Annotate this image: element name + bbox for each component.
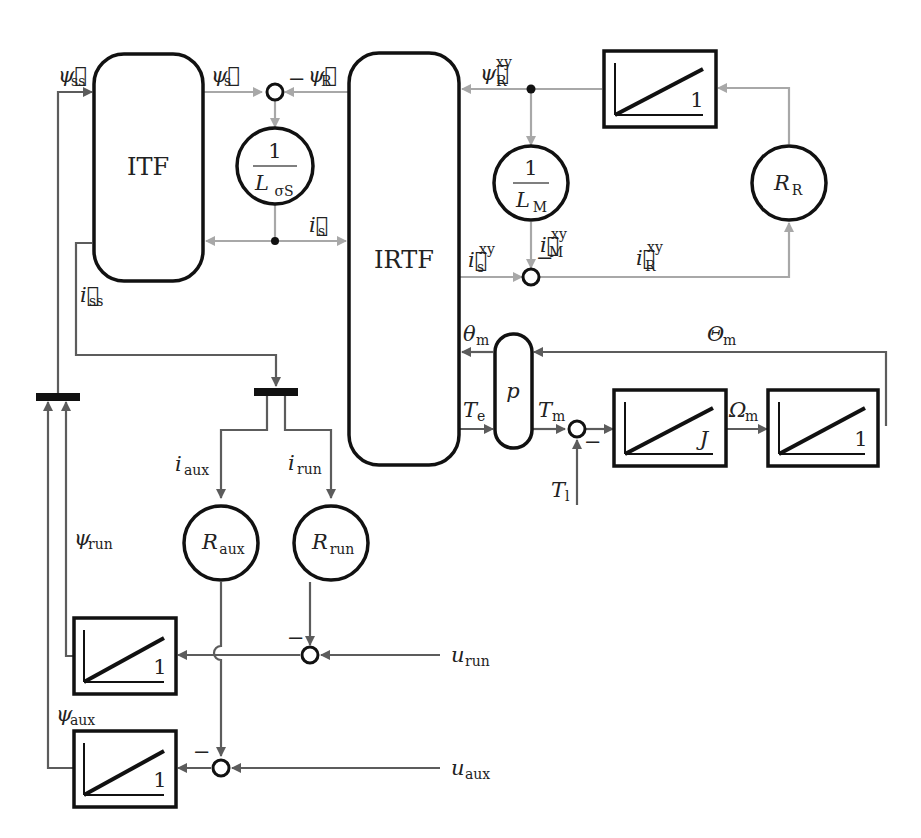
label-psi-aux: ψ aux: [56, 702, 95, 728]
integrator-aux-winding[interactable]: 1: [74, 731, 176, 807]
svg-text:s: s: [318, 223, 325, 239]
svg-text:u: u: [451, 643, 465, 667]
label-t-m: T m: [538, 398, 565, 424]
rotor-resistance-block[interactable]: R R: [752, 146, 826, 220]
label-i-ss: i⃗ ss: [80, 283, 103, 309]
label-psi-r-xy: ψ⃗ R xy: [480, 54, 512, 89]
svg-text:Θ: Θ: [707, 322, 724, 346]
svg-text:run: run: [465, 653, 490, 669]
label-psi-ss: ψ⃗ ss: [58, 63, 87, 89]
integrator-rotor-gain: 1: [690, 88, 703, 112]
svg-text:R: R: [496, 73, 507, 89]
svg-text:aux: aux: [70, 712, 95, 728]
label-i-r-xy: i⃗ R xy: [636, 239, 663, 274]
label-t-l: T l: [551, 478, 570, 504]
label-psi-run: ψ run: [74, 526, 113, 552]
inv-lm-sub: M: [533, 199, 547, 215]
raux-main: R: [201, 530, 218, 554]
inv-lm-den: L: [515, 188, 530, 212]
label-psi-s: ψ⃗ s: [211, 63, 240, 89]
rr-sub: R: [792, 182, 803, 198]
integrator-run-winding[interactable]: 1: [74, 618, 176, 694]
induction-machine-block-diagram: ITF IRTF p 1 L σS 1 L M R R R aux R: [0, 0, 921, 838]
minus-sign-aux: −: [193, 740, 211, 764]
label-i-run: i run: [288, 451, 322, 477]
svg-text:θ: θ: [463, 322, 476, 346]
junction-is: [271, 237, 279, 245]
label-u-aux: u aux: [451, 756, 490, 782]
svg-text:run: run: [297, 461, 322, 477]
svg-text:aux: aux: [465, 766, 490, 782]
svg-text:run: run: [88, 536, 113, 552]
inv-lm-num: 1: [524, 156, 537, 180]
irtf-label: IRTF: [374, 246, 434, 274]
sum-junction-current[interactable]: [523, 269, 539, 285]
integrator-aux-gain: 1: [153, 768, 166, 792]
irtf-block[interactable]: IRTF: [349, 53, 459, 465]
inv-l-sigma-sub: σS: [274, 183, 293, 199]
svg-text:l: l: [565, 488, 570, 504]
itf-label: ITF: [127, 153, 169, 181]
svg-text:aux: aux: [184, 462, 209, 478]
integrator-rotor-flux[interactable]: 1: [604, 51, 716, 127]
svg-text:Ω: Ω: [728, 398, 746, 422]
svg-text:m: m: [552, 408, 565, 424]
r-aux-block[interactable]: R aux: [184, 506, 258, 580]
rrun-main: R: [311, 530, 328, 554]
minus-sign-torque: −: [584, 430, 602, 454]
wire-raux-to-sum: [214, 582, 221, 756]
r-run-block[interactable]: R run: [294, 506, 368, 580]
label-psi-r: ψ⃗ R: [308, 63, 337, 89]
svg-text:xy: xy: [496, 54, 512, 70]
svg-text:ss: ss: [71, 73, 85, 89]
inv-l-sigma-block[interactable]: 1 L σS: [237, 128, 313, 204]
pole-pair-block[interactable]: p: [495, 334, 532, 448]
sum-junction-torque[interactable]: [569, 421, 585, 437]
svg-text:ss: ss: [89, 293, 103, 309]
label-Theta-m: Θ m: [707, 322, 736, 348]
svg-text:R: R: [645, 258, 656, 274]
p-label: p: [506, 379, 519, 403]
svg-text:m: m: [745, 408, 758, 424]
label-t-e: T e: [463, 398, 485, 424]
itf-block[interactable]: ITF: [94, 54, 203, 281]
integrator-angle-gain: 1: [854, 427, 867, 451]
minus-sign-run: −: [287, 626, 305, 650]
sum-junction-aux[interactable]: [213, 760, 229, 776]
svg-text:s: s: [477, 259, 484, 275]
svg-text:i: i: [288, 451, 295, 475]
integrator-angle[interactable]: 1: [768, 390, 878, 466]
label-i-s-xy: i⃗ s xy: [468, 241, 495, 275]
svg-text:m: m: [723, 332, 736, 348]
wire-psi-run: [66, 402, 73, 656]
svg-text:xy: xy: [551, 226, 567, 242]
wire-i-run: [285, 396, 331, 498]
rrun-sub: run: [330, 541, 355, 557]
svg-text:s: s: [224, 73, 231, 89]
integrator-inertia[interactable]: J: [614, 390, 726, 466]
svg-text:R: R: [321, 73, 332, 89]
label-theta-m: θ m: [463, 322, 489, 348]
svg-text:m: m: [476, 332, 489, 348]
label-i-m-xy: i⃗ M xy: [540, 226, 567, 260]
rr-main: R: [773, 171, 790, 195]
inv-lm-block[interactable]: 1 L M: [494, 146, 568, 220]
label-omega-m: Ω m: [728, 398, 758, 424]
svg-text:i: i: [175, 452, 182, 476]
wire-i-r-xy: [540, 223, 789, 277]
svg-text:xy: xy: [647, 239, 663, 255]
sum-junction-flux[interactable]: [267, 84, 283, 100]
mux-bar[interactable]: [36, 393, 80, 401]
inv-l-sigma-num: 1: [268, 139, 281, 163]
label-u-run: u run: [451, 643, 490, 669]
svg-text:e: e: [477, 408, 485, 424]
svg-text:u: u: [451, 756, 465, 780]
svg-text:xy: xy: [479, 241, 495, 257]
label-i-s: i⃗ s: [309, 213, 328, 239]
integrator-run-gain: 1: [153, 655, 166, 679]
wire-rr-to-integrator: [718, 88, 789, 144]
raux-sub: aux: [219, 541, 244, 557]
junction-psi-r-xy: [527, 85, 536, 94]
demux-bar[interactable]: [254, 388, 298, 396]
inv-l-sigma-den: L: [254, 171, 269, 195]
